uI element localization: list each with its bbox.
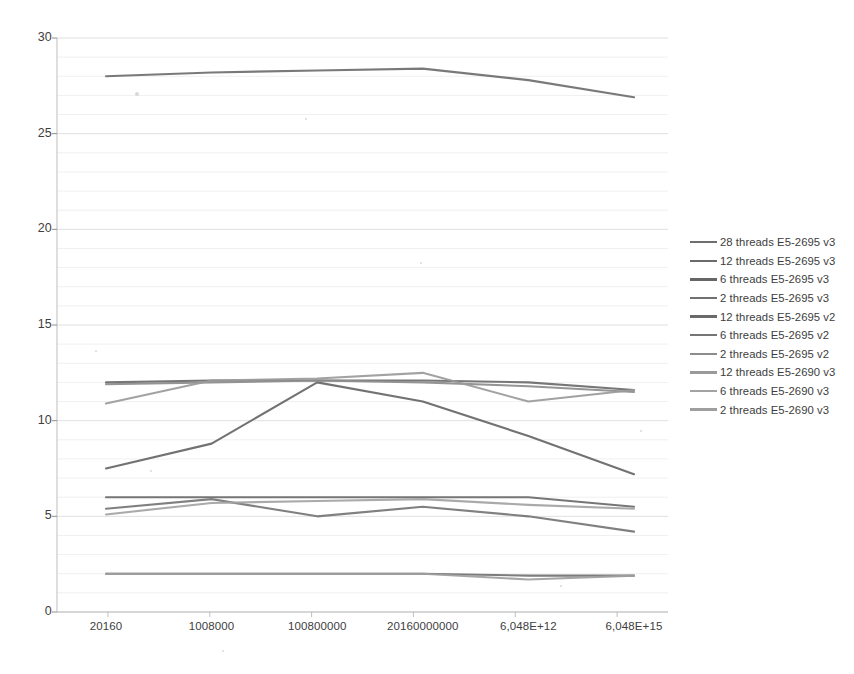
scan-artifact	[95, 350, 97, 352]
x-axis-tick-label: 100800000	[288, 620, 346, 632]
legend-line-swatch	[690, 260, 717, 262]
y-axis: 051015202530	[0, 0, 52, 674]
x-axis-tick-label: 1008000	[189, 620, 234, 632]
legend-item-label: 6 threads E5-2690 v3	[720, 385, 829, 397]
legend-item[interactable]: 2 threads E5-2690 v3	[690, 400, 854, 419]
line-chart: 051015202530 201601008000100800000201600…	[0, 0, 690, 674]
legend-line-swatch	[690, 334, 717, 336]
scan-artifact	[305, 118, 307, 120]
legend-item[interactable]: 28 threads E5-2695 v3	[690, 233, 854, 252]
legend-item[interactable]: 6 threads E5-2695 v2	[690, 326, 854, 345]
legend-item[interactable]: 12 threads E5-2690 v3	[690, 363, 854, 382]
x-axis-tick-label: 20160	[90, 620, 122, 632]
series-line	[106, 69, 634, 98]
legend-item-label: 28 threads E5-2695 v3	[720, 236, 835, 248]
legend-item-label: 2 threads E5-2695 v2	[720, 348, 829, 360]
plot-canvas	[0, 0, 690, 674]
x-axis-tick-label: 6,048E+12	[500, 620, 557, 632]
legend-item-label: 12 threads E5-2695 v3	[720, 255, 835, 267]
legend-item[interactable]: 12 threads E5-2695 v3	[690, 252, 854, 271]
data-series-group	[106, 69, 634, 580]
scan-artifact	[420, 262, 422, 264]
legend-line-swatch	[690, 390, 717, 392]
legend-item-label: 6 threads E5-2695 v3	[720, 273, 829, 285]
y-axis-tick-label: 20	[6, 222, 52, 235]
y-axis-tick-label: 25	[6, 127, 52, 140]
y-axis-tick-label: 10	[6, 414, 52, 427]
legend-item[interactable]: 2 threads E5-2695 v2	[690, 345, 854, 364]
legend-item-label: 12 threads E5-2690 v3	[720, 366, 835, 378]
legend-line-swatch	[690, 241, 717, 243]
legend-line-swatch	[690, 353, 717, 355]
y-axis-tick-label: 5	[6, 509, 52, 522]
x-axis-tick-label: 6,048E+15	[606, 620, 663, 632]
x-axis: 201601008000100800000201600000006,048E+1…	[57, 620, 668, 650]
legend-item[interactable]: 6 threads E5-2690 v3	[690, 382, 854, 401]
scan-artifact	[222, 650, 224, 652]
legend-item-label: 6 threads E5-2695 v2	[720, 329, 829, 341]
series-line	[106, 499, 634, 532]
y-axis-tick-label: 30	[6, 31, 52, 44]
axis-tick-marks	[52, 38, 617, 617]
legend-item[interactable]: 12 threads E5-2695 v2	[690, 307, 854, 326]
y-axis-tick-label: 0	[6, 605, 52, 618]
scan-artifact	[560, 585, 562, 587]
legend-line-swatch	[690, 371, 717, 373]
y-axis-tick-label: 15	[6, 318, 52, 331]
scan-artifact	[150, 470, 152, 472]
series-line	[106, 382, 634, 474]
legend-item-label: 2 threads E5-2695 v3	[720, 292, 829, 304]
legend-item-label: 2 threads E5-2690 v3	[720, 404, 829, 416]
legend-item-label: 12 threads E5-2695 v2	[720, 311, 835, 323]
scan-artifact	[640, 430, 642, 432]
legend-line-swatch	[690, 408, 717, 410]
legend-item[interactable]: 6 threads E5-2695 v3	[690, 270, 854, 289]
legend-item[interactable]: 2 threads E5-2695 v3	[690, 289, 854, 308]
legend-line-swatch	[690, 297, 717, 299]
chart-legend: 28 threads E5-2695 v312 threads E5-2695 …	[690, 233, 854, 419]
x-axis-tick-label: 20160000000	[387, 620, 458, 632]
legend-line-swatch	[690, 315, 717, 317]
chart-screenshot: 051015202530 201601008000100800000201600…	[0, 0, 854, 674]
scan-artifact	[135, 92, 139, 96]
legend-line-swatch	[690, 278, 717, 280]
major-gridlines	[57, 38, 668, 612]
